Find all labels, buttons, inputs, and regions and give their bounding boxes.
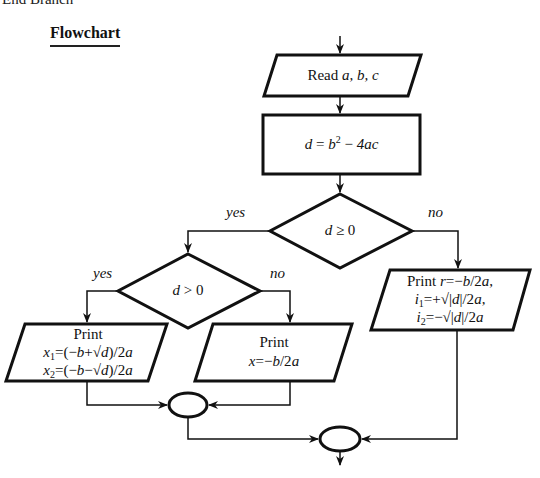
ge-zero: ≥ 0 — [332, 222, 355, 238]
var-b: b — [272, 353, 280, 369]
var-b: b — [328, 136, 336, 152]
plus-sqrt: +√ — [84, 344, 101, 360]
plus-sqrt-abs: =+√| — [424, 291, 452, 307]
expr-part: =(− — [55, 362, 77, 378]
var-a: a — [125, 362, 133, 378]
abs-end: |/2 — [459, 291, 474, 307]
comma: , — [482, 291, 486, 307]
arrow-dec2-yes — [87, 291, 118, 322]
arrow-join1-to-join2 — [188, 417, 318, 439]
print-word: Print — [18, 325, 158, 343]
eq-minus: =− — [256, 353, 273, 369]
flowchart-canvas — [0, 0, 540, 478]
expr-end: )/2 — [109, 344, 126, 360]
print-complex-roots-label: Print r=−b/2a, i1=+√|d|/2a, i2=−√|d|/2a — [380, 272, 520, 326]
read-variables: a, b, c — [342, 67, 379, 83]
print-two-real-roots-label: Print x1=(−b+√d)/2a x2=(−b−√d)/2a — [18, 325, 158, 379]
var-d: d — [173, 282, 181, 298]
arrow-complex-to-join2 — [362, 331, 457, 439]
var-x: x — [43, 362, 50, 378]
i2-formula: i2=−√|d|/2a — [380, 308, 520, 326]
gt-zero: > 0 — [180, 282, 203, 298]
eq-minus: =− — [446, 273, 463, 289]
var-a: a — [474, 291, 482, 307]
slash-2: /2 — [280, 353, 292, 369]
var-a: a — [125, 344, 133, 360]
equals: = — [312, 136, 328, 152]
var-d: d — [325, 222, 333, 238]
arrow-dec1-yes — [188, 231, 270, 252]
comma: , — [489, 273, 493, 289]
expr-end: )/2 — [109, 362, 126, 378]
minus-op: − — [341, 136, 357, 152]
print-word: Print — [204, 333, 344, 352]
minus-sqrt-abs: =−√| — [426, 309, 454, 325]
abs-end: |/2 — [461, 309, 476, 325]
decision-d-gt-0-label: d > 0 — [148, 281, 228, 300]
read-input-label: Read a, b, c — [276, 66, 410, 85]
edge-label-no-1: no — [428, 204, 443, 221]
print-word: Print — [407, 273, 440, 289]
term-4ac: 4ac — [357, 136, 379, 152]
join-connector-2 — [320, 427, 360, 451]
decision-d-ge-0-label: d ≥ 0 — [300, 221, 380, 240]
minus-sqrt: −√ — [84, 362, 101, 378]
x-formula: x=−b/2a — [204, 352, 344, 371]
var-d: d — [101, 362, 109, 378]
arrow-dec1-no — [412, 231, 458, 268]
var-a: a — [292, 353, 300, 369]
arrow-two-real-to-join1 — [87, 382, 167, 405]
arrow-dec2-no — [260, 291, 290, 322]
edge-label-yes-1: yes — [226, 204, 245, 221]
var-x: x — [249, 353, 256, 369]
slash-2: /2 — [470, 273, 482, 289]
var-a: a — [476, 309, 484, 325]
r-formula: Print r=−b/2a, — [380, 272, 520, 290]
read-word: Read — [307, 67, 342, 83]
expr-part: =(− — [55, 344, 77, 360]
print-one-real-root-label: Print x=−b/2a — [204, 333, 344, 371]
x2-formula: x2=(−b−√d)/2a — [18, 361, 158, 379]
var-d: d — [101, 344, 109, 360]
x1-formula: x1=(−b+√d)/2a — [18, 343, 158, 361]
compute-discriminant-label: d = b2 − 4ac — [263, 135, 420, 154]
edge-label-no-2: no — [270, 265, 285, 282]
i1-formula: i1=+√|d|/2a, — [380, 290, 520, 308]
edge-label-yes-2: yes — [93, 265, 112, 282]
join-connector-1 — [169, 393, 207, 417]
arrow-one-real-to-join1 — [209, 382, 290, 405]
var-x: x — [43, 344, 50, 360]
